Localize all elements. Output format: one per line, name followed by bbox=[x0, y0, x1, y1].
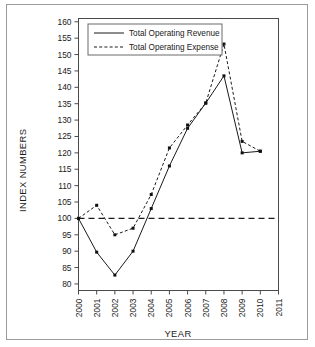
data-point-marker bbox=[150, 207, 153, 210]
y-tick-label: 130 bbox=[58, 115, 72, 125]
y-tick-label: 115 bbox=[58, 164, 72, 174]
y-tick-label: 145 bbox=[58, 66, 72, 76]
data-point-marker bbox=[186, 127, 189, 130]
x-tick-label: 2009 bbox=[237, 298, 247, 317]
data-point-marker bbox=[132, 227, 135, 230]
plot-area-frame bbox=[79, 19, 279, 291]
data-point-marker bbox=[168, 146, 171, 149]
data-point-marker bbox=[168, 164, 171, 167]
data-point-marker bbox=[186, 124, 189, 127]
series-line-2 bbox=[79, 44, 261, 235]
x-tick-label: 2003 bbox=[128, 298, 138, 317]
data-point-marker bbox=[150, 193, 153, 196]
y-tick-label: 90 bbox=[62, 246, 72, 256]
data-point-marker bbox=[204, 102, 207, 105]
x-tick-label: 2010 bbox=[255, 298, 265, 317]
data-point-marker bbox=[222, 74, 225, 77]
x-tick-label: 2000 bbox=[74, 298, 84, 317]
y-tick-label: 155 bbox=[58, 33, 72, 43]
series-line-1 bbox=[79, 76, 261, 275]
data-point-marker bbox=[113, 274, 116, 277]
y-axis-title: INDEX NUMBERS bbox=[17, 129, 28, 212]
data-point-marker bbox=[113, 233, 116, 236]
y-tick-label: 105 bbox=[58, 197, 72, 207]
data-point-markers bbox=[77, 43, 262, 277]
data-point-marker bbox=[95, 251, 98, 254]
y-axis-tick-labels: 8085909510010511011512012513013514014515… bbox=[58, 17, 72, 289]
y-axis-ticks bbox=[75, 22, 79, 284]
legend-label-1: Total Operating Revenue bbox=[129, 29, 220, 38]
x-tick-label: 2001 bbox=[92, 298, 102, 317]
y-tick-label: 80 bbox=[62, 279, 72, 289]
data-point-marker bbox=[77, 217, 80, 220]
data-point-marker bbox=[132, 250, 135, 253]
line-chart-canvas: 8085909510010511011512012513013514014515… bbox=[0, 0, 315, 347]
y-tick-label: 95 bbox=[62, 230, 72, 240]
y-tick-label: 150 bbox=[58, 50, 72, 60]
x-tick-label: 2007 bbox=[201, 298, 211, 317]
y-tick-label: 160 bbox=[58, 17, 72, 27]
x-tick-label: 2008 bbox=[219, 298, 229, 317]
y-tick-label: 140 bbox=[58, 82, 72, 92]
x-tick-label: 2005 bbox=[164, 298, 174, 317]
x-axis-tick-labels: 2000200120022003200420052006200720082009… bbox=[74, 298, 284, 317]
data-point-marker bbox=[222, 43, 225, 46]
data-point-marker bbox=[259, 150, 262, 153]
x-tick-label: 2002 bbox=[110, 298, 120, 317]
chart-figure: 8085909510010511011512012513013514014515… bbox=[0, 0, 315, 347]
data-point-marker bbox=[241, 151, 244, 154]
data-series-group bbox=[79, 44, 261, 275]
y-tick-label: 125 bbox=[58, 131, 72, 141]
y-tick-label: 85 bbox=[62, 263, 72, 273]
y-tick-label: 100 bbox=[58, 213, 72, 223]
data-point-marker bbox=[241, 140, 244, 143]
x-axis-ticks bbox=[79, 291, 279, 295]
y-tick-label: 120 bbox=[58, 148, 72, 158]
y-tick-label: 135 bbox=[58, 99, 72, 109]
x-axis-title: YEAR bbox=[164, 328, 191, 339]
data-point-marker bbox=[95, 204, 98, 207]
y-tick-label: 110 bbox=[58, 181, 72, 191]
x-tick-label: 2011 bbox=[274, 298, 284, 316]
x-tick-label: 2004 bbox=[146, 298, 156, 317]
chart-legend: Total Operating RevenueTotal Operating E… bbox=[88, 24, 222, 55]
x-tick-label: 2006 bbox=[183, 298, 193, 317]
legend-label-2: Total Operating Expense bbox=[129, 43, 219, 52]
